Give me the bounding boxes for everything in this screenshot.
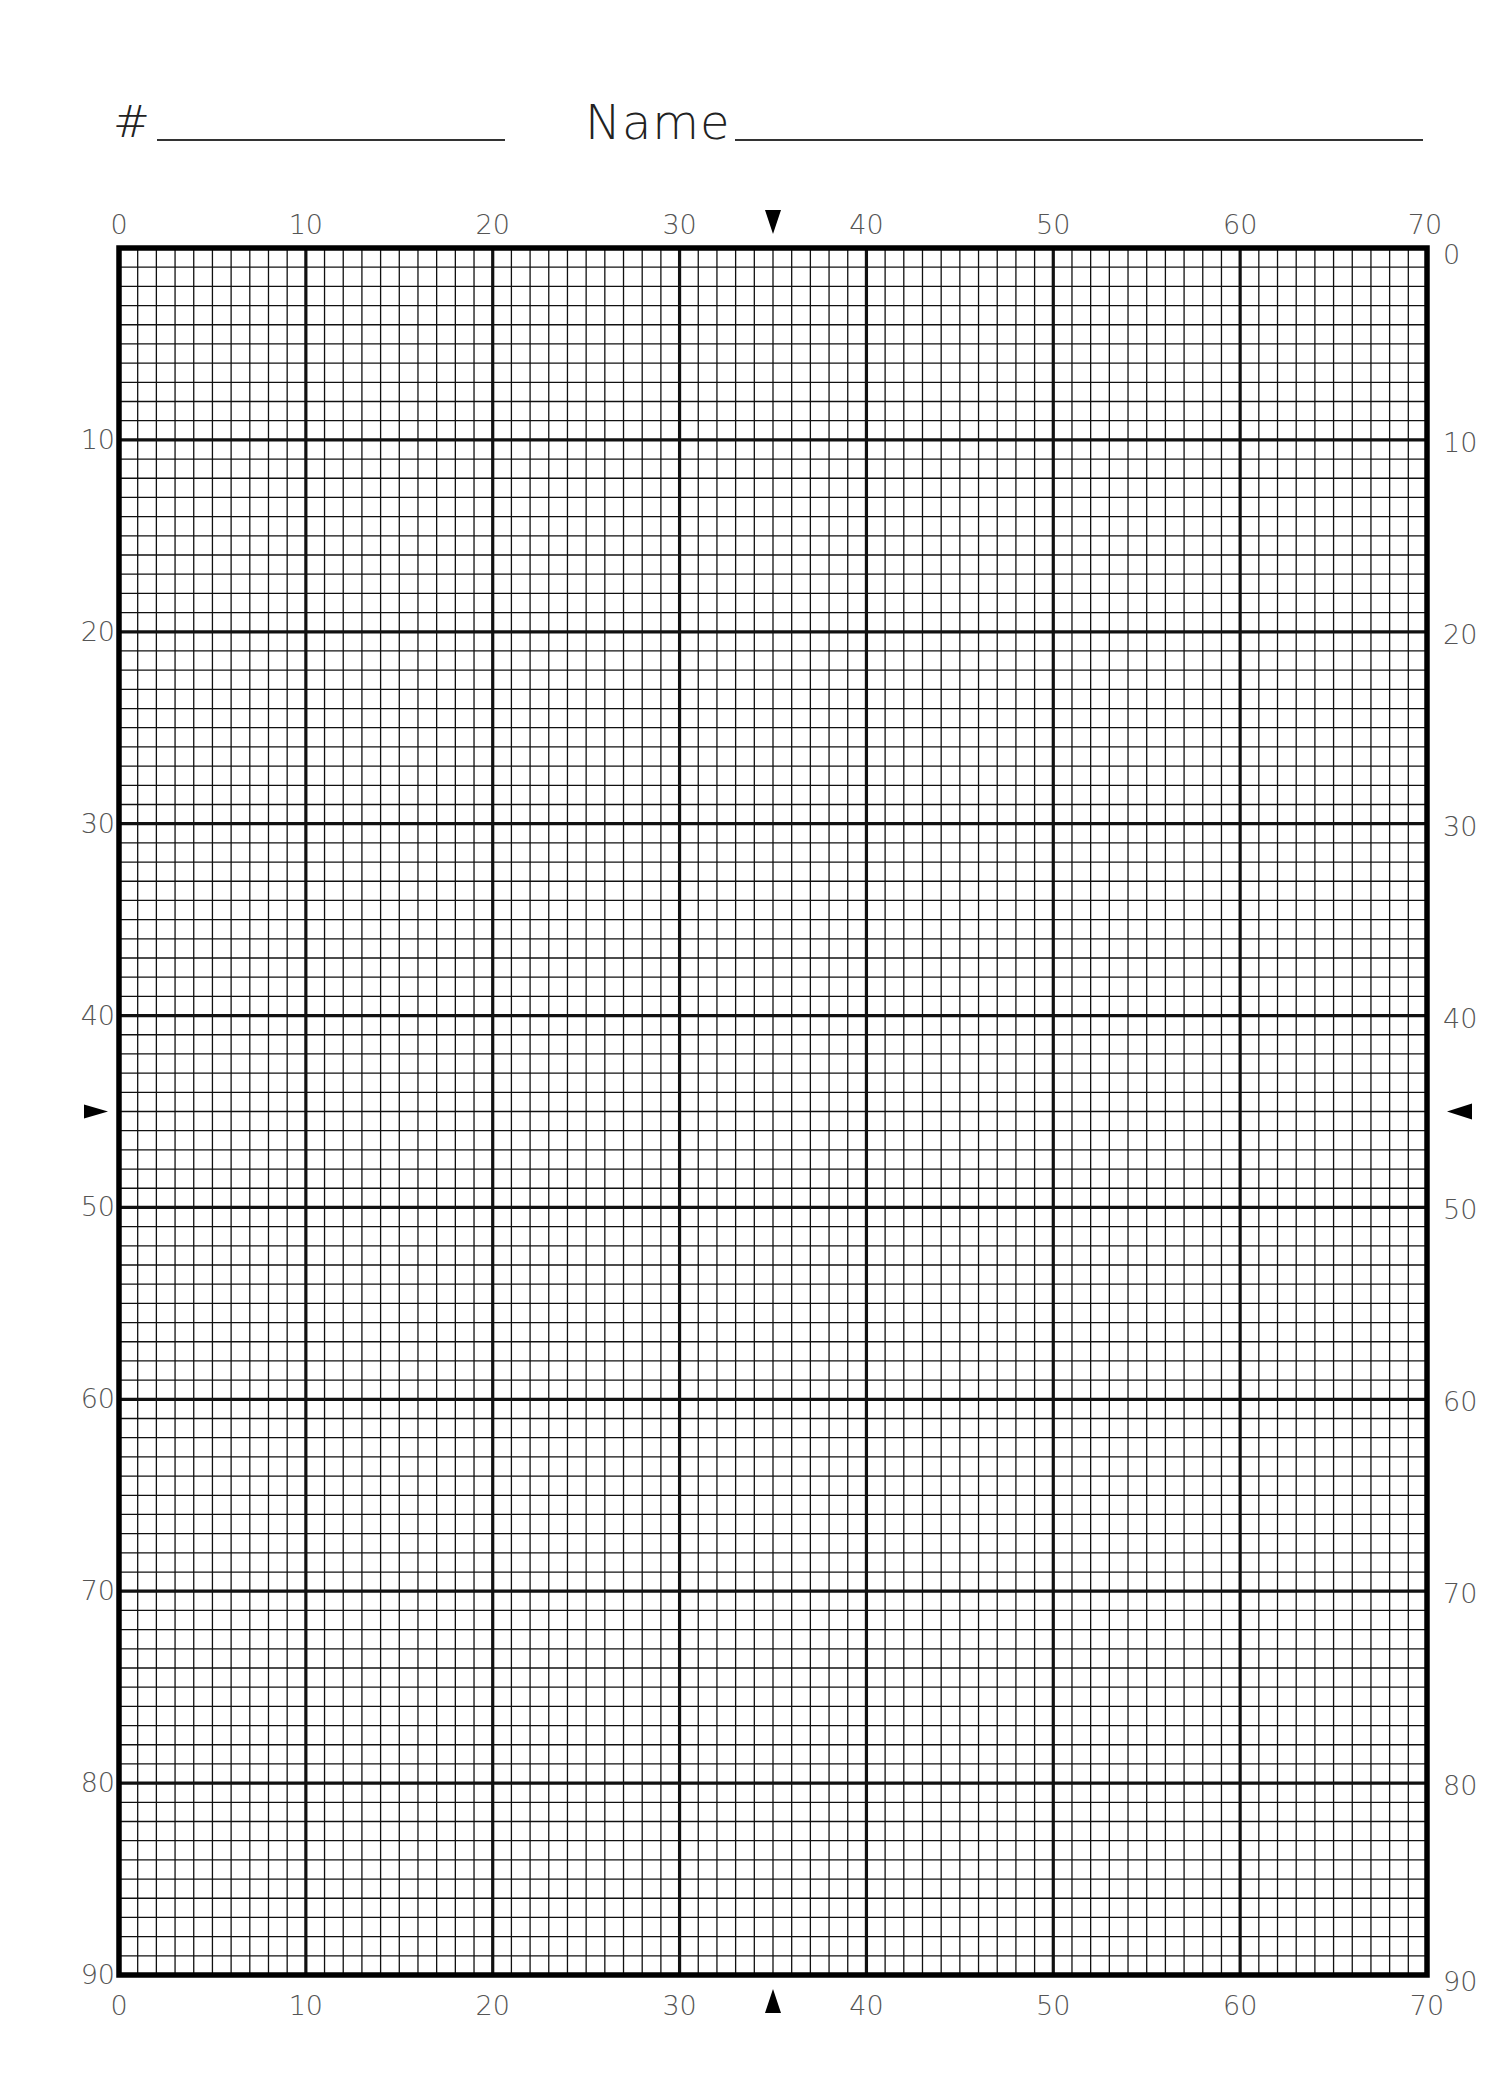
top-axis-label: 20 (476, 209, 510, 240)
right-axis-label: 70 (1443, 1578, 1477, 1609)
center-marker-bottom-icon (765, 1989, 781, 2013)
right-axis-label: 30 (1443, 811, 1477, 842)
left-axis-label: 20 (81, 616, 115, 647)
left-axis-label: 50 (81, 1191, 115, 1222)
bottom-axis-label: 30 (662, 1990, 696, 2021)
left-axis-label: 10 (81, 424, 115, 455)
left-axis-label: 90 (81, 1959, 115, 1990)
graph-grid: 0102030405060700102030405060701020304050… (0, 0, 1492, 2095)
top-axis-label: 40 (849, 209, 883, 240)
top-axis-label: 30 (662, 209, 696, 240)
left-axis-label: 60 (81, 1383, 115, 1414)
top-axis-label: 10 (289, 209, 323, 240)
right-axis-label: 80 (1443, 1770, 1477, 1801)
right-axis-label: 0 (1443, 239, 1460, 270)
top-axis-label: 70 (1408, 209, 1442, 240)
right-axis-label: 40 (1443, 1003, 1477, 1034)
left-axis-label: 80 (81, 1767, 115, 1798)
left-axis-label: 30 (81, 808, 115, 839)
right-axis-label: 90 (1443, 1966, 1477, 1997)
left-axis-label: 40 (81, 1000, 115, 1031)
bottom-axis-label: 0 (110, 1990, 127, 2021)
right-axis-label: 10 (1443, 427, 1477, 458)
bottom-axis-label: 20 (476, 1990, 510, 2021)
bottom-axis-label: 60 (1223, 1990, 1257, 2021)
top-axis-label: 60 (1223, 209, 1257, 240)
left-axis-label: 70 (81, 1575, 115, 1606)
bottom-axis-label: 70 (1410, 1990, 1444, 2021)
bottom-axis-label: 50 (1036, 1990, 1070, 2021)
center-marker-top-icon (765, 210, 781, 234)
bottom-axis-label: 10 (289, 1990, 323, 2021)
top-axis-label: 50 (1036, 209, 1070, 240)
right-axis-label: 60 (1443, 1386, 1477, 1417)
top-axis-label: 0 (110, 209, 127, 240)
center-marker-left-icon (84, 1105, 108, 1119)
right-axis-label: 20 (1443, 619, 1477, 650)
right-axis-label: 50 (1443, 1194, 1477, 1225)
center-marker-right-icon (1447, 1104, 1472, 1120)
bottom-axis-label: 40 (849, 1990, 883, 2021)
